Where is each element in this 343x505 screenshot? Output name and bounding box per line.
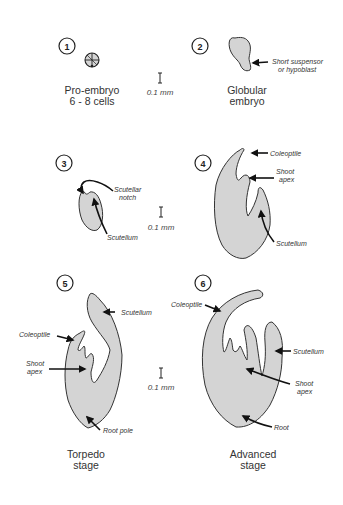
suspensor-label: or hypoblast: [278, 66, 317, 74]
stage-6-embryo-shape: [202, 290, 282, 427]
stage-caption: stage: [240, 459, 266, 471]
stage-caption: 6 - 8 cells: [70, 95, 115, 107]
pro-embryo-cell-shape: [85, 53, 99, 67]
scale-bar: 0.1 mm: [148, 207, 175, 232]
shoot-apex-label: Shoot: [276, 168, 295, 175]
stage-4-embryo-shape: [214, 149, 270, 259]
scutellar-notch-label: Scutellar: [114, 186, 142, 193]
stage-caption: embryo: [229, 95, 264, 107]
stage-number: 4: [200, 159, 205, 169]
root-label: Root: [274, 424, 290, 431]
stage-3-embryo-shape: [79, 191, 103, 230]
stage-number: 5: [62, 279, 67, 289]
stage-1: 1 Pro-embryo 6 - 8 cells: [59, 38, 120, 107]
scale-bar-label: 0.1 mm: [148, 223, 175, 232]
stage-2: 2 Short suspensor or hypoblast Globular …: [192, 37, 324, 107]
coleoptile-arrow: [205, 305, 220, 311]
scutellum-label: Scutellum: [293, 348, 324, 355]
scutellum-label: Scutellum: [107, 234, 138, 241]
stage-number: 1: [64, 42, 69, 52]
stage-caption: stage: [73, 459, 99, 471]
coleoptile-label: Coleoptile: [19, 331, 50, 339]
shoot-apex-label: Shoot: [26, 360, 45, 367]
shoot-apex-label: Shoot: [295, 380, 314, 387]
suspensor-arrow: [253, 62, 268, 63]
stage-6: 6 Coleoptile Scutellum Shoot apex Root A…: [171, 275, 324, 471]
stage-number: 2: [197, 42, 202, 52]
stage-5-embryo-shape: [65, 293, 122, 428]
globular-embryo-shape: [229, 37, 251, 70]
coleoptile-label: Coleoptile: [270, 150, 301, 158]
stage-number: 6: [200, 279, 205, 289]
stage-5: 5 Scutellum Coleoptile Shoot apex Root p…: [19, 275, 152, 471]
scale-bar: 0.1 mm: [147, 73, 174, 97]
stage-number: 3: [61, 159, 66, 169]
scale-bar-label: 0.1 mm: [148, 383, 175, 392]
embryo-development-diagram: 1 Pro-embryo 6 - 8 cells 0.1 mm 2 Short …: [0, 0, 343, 505]
scutellum-label: Scutellum: [121, 309, 152, 316]
coleoptile-label: Coleoptile: [171, 301, 202, 309]
suspensor-label: Short suspensor: [272, 58, 324, 66]
shoot-apex-label: apex: [279, 176, 295, 184]
stage-3: 3 Scutellar notch Scutellum: [56, 155, 142, 241]
scutellar-notch-arrow: [81, 181, 113, 193]
scale-bar-label: 0.1 mm: [147, 88, 174, 97]
coleoptile-arrow: [57, 336, 73, 340]
scutellar-notch-label: notch: [119, 194, 136, 201]
scutellum-label: Scutellum: [276, 240, 307, 247]
scale-bar: 0.1 mm: [148, 368, 175, 392]
shoot-apex-label: apex: [27, 368, 43, 376]
shoot-apex-label: apex: [297, 388, 313, 396]
stage-4: 4 Coleoptile Shoot apex Scutellum: [195, 149, 307, 259]
root-pole-label: Root pole: [103, 427, 133, 435]
